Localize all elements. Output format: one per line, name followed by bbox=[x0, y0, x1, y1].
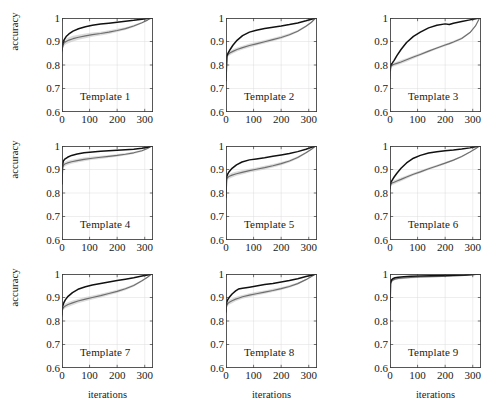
y-axis-label: accuracy bbox=[9, 120, 20, 200]
x-tick-label: 300 bbox=[464, 370, 481, 381]
x-tick-label: 100 bbox=[409, 242, 426, 253]
panel-title: Template 9 bbox=[408, 347, 459, 358]
y-axis-ticks: 0.60.70.80.91 bbox=[358, 18, 388, 112]
x-axis-label: iterations bbox=[62, 389, 153, 400]
panel-title: Template 1 bbox=[80, 91, 131, 102]
y-tick-label: 1 bbox=[196, 269, 224, 280]
x-tick-label: 200 bbox=[273, 114, 290, 125]
y-tick-label: 0.9 bbox=[360, 164, 388, 175]
y-axis-ticks: 0.60.70.80.91 bbox=[30, 274, 60, 368]
y-tick-label: 1 bbox=[32, 13, 60, 24]
x-axis-ticks: 0100200300 bbox=[390, 370, 481, 384]
chart-panel-template-5: 0.60.70.80.91Template 50100200300 bbox=[164, 130, 328, 258]
y-tick-label: 0.9 bbox=[196, 36, 224, 47]
chart-panel-template-2: 0.60.70.80.91Template 20100200300 bbox=[164, 2, 328, 130]
y-tick-label: 0.6 bbox=[196, 107, 224, 118]
y-tick-label: 0.8 bbox=[32, 316, 60, 327]
chart-panel-template-8: 0.60.70.80.91Template 80100200300iterati… bbox=[164, 258, 328, 386]
chart-panel-template-4: accuracy0.60.70.80.91Template 4010020030… bbox=[0, 130, 164, 258]
y-tick-label: 0.8 bbox=[196, 60, 224, 71]
y-tick-label: 0.8 bbox=[360, 60, 388, 71]
x-tick-label: 0 bbox=[59, 370, 65, 381]
y-tick-label: 0.7 bbox=[196, 83, 224, 94]
x-tick-label: 300 bbox=[136, 242, 153, 253]
x-tick-label: 100 bbox=[245, 242, 262, 253]
x-tick-label: 200 bbox=[109, 114, 126, 125]
y-tick-label: 0.6 bbox=[32, 107, 60, 118]
y-tick-label: 0.6 bbox=[196, 363, 224, 374]
y-tick-label: 1 bbox=[32, 141, 60, 152]
y-axis-ticks: 0.60.70.80.91 bbox=[194, 18, 224, 112]
x-tick-label: 200 bbox=[437, 242, 454, 253]
y-tick-label: 0.9 bbox=[32, 292, 60, 303]
y-tick-label: 0.6 bbox=[196, 235, 224, 246]
x-axis-ticks: 0100200300 bbox=[62, 114, 153, 128]
y-tick-label: 0.8 bbox=[360, 188, 388, 199]
chart-panel-template-6: 0.60.70.80.91Template 60100200300 bbox=[328, 130, 492, 258]
y-axis-ticks: 0.60.70.80.91 bbox=[30, 146, 60, 240]
y-tick-label: 0.6 bbox=[32, 235, 60, 246]
y-tick-label: 0.8 bbox=[32, 60, 60, 71]
chart-panel-template-3: 0.60.70.80.91Template 30100200300 bbox=[328, 2, 492, 130]
x-tick-label: 0 bbox=[387, 114, 393, 125]
x-tick-label: 200 bbox=[437, 114, 454, 125]
y-tick-label: 0.6 bbox=[360, 363, 388, 374]
y-tick-label: 0.7 bbox=[360, 211, 388, 222]
y-axis-ticks: 0.60.70.80.91 bbox=[358, 274, 388, 368]
y-tick-label: 1 bbox=[196, 13, 224, 24]
panel-title: Template 2 bbox=[244, 91, 295, 102]
y-tick-label: 0.9 bbox=[32, 164, 60, 175]
y-tick-label: 0.7 bbox=[196, 339, 224, 350]
panel-title: Template 4 bbox=[80, 219, 131, 230]
x-tick-label: 300 bbox=[136, 370, 153, 381]
y-tick-label: 0.7 bbox=[360, 83, 388, 94]
y-tick-label: 0.9 bbox=[196, 292, 224, 303]
y-tick-label: 1 bbox=[360, 141, 388, 152]
x-tick-label: 0 bbox=[223, 370, 229, 381]
y-tick-label: 0.9 bbox=[360, 292, 388, 303]
x-tick-label: 0 bbox=[387, 370, 393, 381]
y-tick-label: 1 bbox=[32, 269, 60, 280]
x-tick-label: 200 bbox=[109, 242, 126, 253]
y-tick-label: 0.7 bbox=[196, 211, 224, 222]
y-tick-label: 0.9 bbox=[360, 36, 388, 47]
y-tick-label: 1 bbox=[360, 269, 388, 280]
y-tick-label: 0.6 bbox=[32, 363, 60, 374]
chart-panel-template-9: 0.60.70.80.91Template 90100200300iterati… bbox=[328, 258, 492, 386]
x-tick-label: 100 bbox=[409, 114, 426, 125]
x-axis-ticks: 0100200300 bbox=[226, 370, 317, 384]
y-tick-label: 1 bbox=[196, 141, 224, 152]
panel-title: Template 3 bbox=[408, 91, 459, 102]
y-axis-ticks: 0.60.70.80.91 bbox=[30, 18, 60, 112]
y-tick-label: 0.7 bbox=[32, 339, 60, 350]
x-tick-label: 0 bbox=[223, 242, 229, 253]
y-axis-ticks: 0.60.70.80.91 bbox=[194, 146, 224, 240]
y-tick-label: 1 bbox=[360, 13, 388, 24]
panel-title: Template 5 bbox=[244, 219, 295, 230]
x-tick-label: 100 bbox=[81, 242, 98, 253]
x-tick-label: 200 bbox=[109, 370, 126, 381]
x-axis-label: iterations bbox=[226, 389, 317, 400]
x-tick-label: 0 bbox=[387, 242, 393, 253]
x-axis-label: iterations bbox=[390, 389, 481, 400]
x-tick-label: 100 bbox=[245, 370, 262, 381]
x-tick-label: 0 bbox=[59, 114, 65, 125]
y-tick-label: 0.7 bbox=[32, 83, 60, 94]
x-tick-label: 300 bbox=[136, 114, 153, 125]
chart-panel-template-1: accuracy0.60.70.80.91Template 1010020030… bbox=[0, 2, 164, 130]
y-tick-label: 0.7 bbox=[360, 339, 388, 350]
y-axis-ticks: 0.60.70.80.91 bbox=[358, 146, 388, 240]
y-tick-label: 0.7 bbox=[32, 211, 60, 222]
x-axis-ticks: 0100200300 bbox=[390, 114, 481, 128]
x-tick-label: 100 bbox=[81, 370, 98, 381]
x-tick-label: 200 bbox=[273, 370, 290, 381]
x-tick-label: 0 bbox=[59, 242, 65, 253]
panel-title: Template 6 bbox=[408, 219, 459, 230]
chart-panel-template-7: accuracy0.60.70.80.91Template 7010020030… bbox=[0, 258, 164, 386]
y-tick-label: 0.8 bbox=[32, 188, 60, 199]
x-tick-label: 300 bbox=[464, 114, 481, 125]
x-tick-label: 200 bbox=[273, 242, 290, 253]
panel-title: Template 8 bbox=[244, 347, 295, 358]
y-tick-label: 0.6 bbox=[360, 235, 388, 246]
y-axis-label: accuracy bbox=[9, 0, 20, 72]
